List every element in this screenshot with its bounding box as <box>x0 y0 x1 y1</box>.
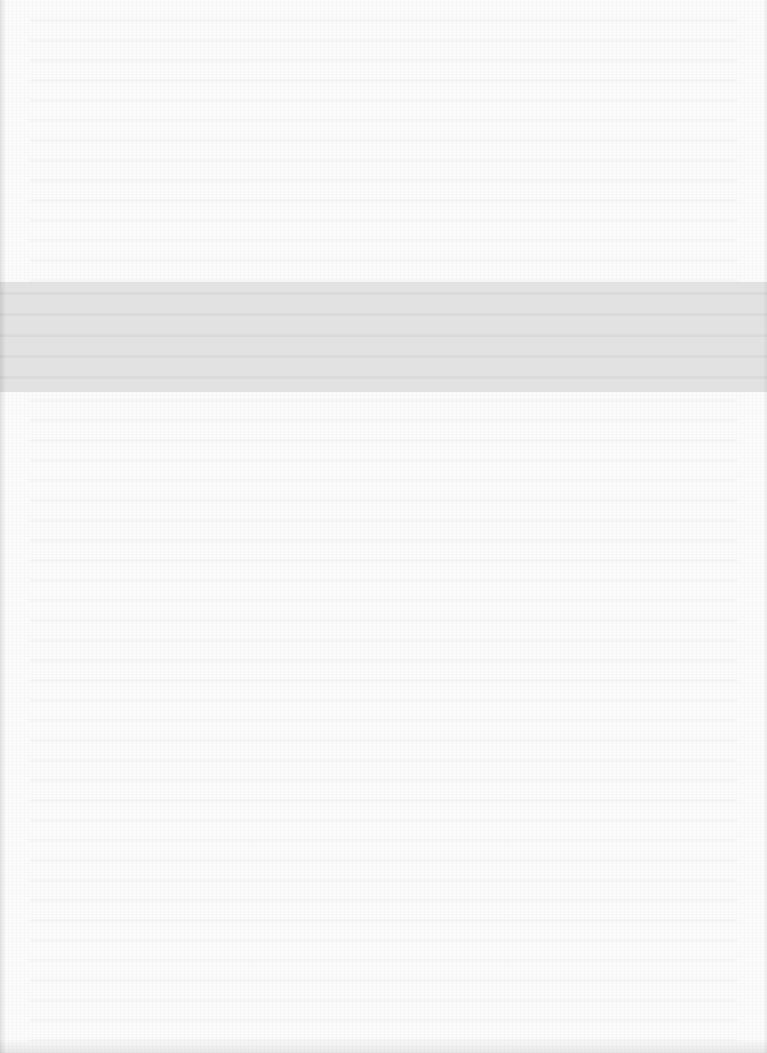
gray-band <box>0 282 767 392</box>
page-right-edge-shadow <box>763 0 767 1053</box>
page-bottom-edge-shadow <box>0 1039 767 1053</box>
scanned-page <box>0 0 767 1053</box>
bleed-through-texture <box>30 10 737 1043</box>
page-left-edge-shadow <box>0 0 6 1053</box>
